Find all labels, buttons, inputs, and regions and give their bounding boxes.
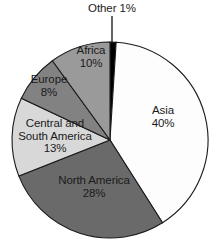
pie-slice-group xyxy=(12,42,208,238)
pie-chart-svg xyxy=(0,0,222,248)
pie-chart-figure: Other 1% Asia 40% North America 28% Cent… xyxy=(0,0,222,248)
